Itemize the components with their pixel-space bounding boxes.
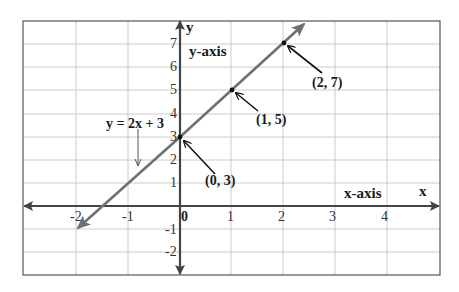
- y-axis-name: y: [186, 20, 194, 35]
- x-tick-2: 2: [278, 210, 285, 224]
- point-0-3: [178, 135, 183, 140]
- y-axis-caption: y-axis: [189, 44, 227, 59]
- y-tick-7: 7: [170, 37, 177, 51]
- point-1-5: [230, 88, 235, 93]
- y-tick-5: 5: [170, 83, 177, 97]
- point-label-2-7: (2, 7): [312, 76, 342, 90]
- x-tick-1: 1: [227, 210, 234, 224]
- equation-label: y = 2x + 3: [106, 117, 164, 131]
- pointer-arrow-2-7: [288, 46, 322, 73]
- pointer-arrow-0-3: [184, 141, 215, 174]
- point-label-1-5: (1, 5): [256, 113, 286, 127]
- origin-label: 0: [181, 210, 188, 224]
- y-tick-minus-1: -1: [165, 223, 177, 237]
- x-axis-name: x: [419, 184, 427, 199]
- y-tick-1: 1: [170, 176, 177, 190]
- pointer-arrow-1-5: [236, 93, 258, 111]
- grid: [23, 21, 440, 275]
- y-tick-minus-2: -2: [165, 245, 177, 259]
- point-2-7: [282, 41, 287, 46]
- x-tick-minus-1: -1: [122, 210, 134, 224]
- coordinate-plane: [0, 0, 459, 292]
- y-tick-3: 3: [170, 130, 177, 144]
- y-tick-2: 2: [170, 153, 177, 167]
- x-tick-minus-2: -2: [70, 210, 82, 224]
- x-tick-3: 3: [329, 210, 336, 224]
- y-tick-6: 6: [170, 60, 177, 74]
- point-label-0-3: (0, 3): [205, 174, 235, 188]
- y-tick-4: 4: [170, 107, 177, 121]
- x-axis-caption: x-axis: [344, 186, 382, 201]
- x-tick-4: 4: [381, 210, 388, 224]
